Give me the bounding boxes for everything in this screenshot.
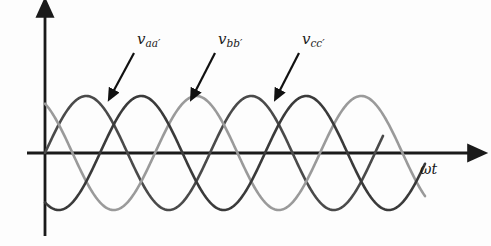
- label-vaa-arrow: [113, 53, 134, 92]
- label-vbb-sub: bb′: [226, 37, 242, 49]
- label-vcc-arrow: [279, 53, 299, 92]
- label-vcc-sub: cc′: [310, 37, 324, 49]
- label-vcc: vcc′: [302, 30, 325, 49]
- label-vaa-sub: aa′: [145, 37, 160, 49]
- x-axis-label: ωt: [420, 161, 437, 177]
- label-vbb: vbb′: [218, 30, 242, 49]
- waveform-figure: vaa′ vbb′ vcc′ ωt: [0, 0, 491, 246]
- waveform-plot: [0, 0, 491, 246]
- annotation-arrows: [113, 53, 299, 92]
- label-vbb-arrow: [195, 53, 215, 92]
- label-vaa: vaa′: [137, 30, 160, 49]
